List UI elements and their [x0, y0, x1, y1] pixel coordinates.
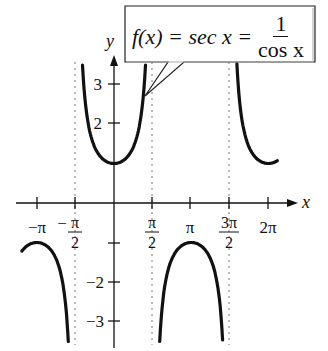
- xtick-label-3pi-over-2-num: 3π: [221, 214, 237, 231]
- x-axis-label: x: [301, 192, 310, 212]
- formula-lhs: f(x) = sec x =: [132, 24, 252, 50]
- axes: [16, 55, 298, 348]
- branch-right-upper: [237, 64, 278, 164]
- xtick-label-neg-pi-over-2-den: 2: [71, 234, 79, 251]
- formula-fraction: 1 cos x: [258, 13, 304, 61]
- formula-numerator: 1: [273, 13, 288, 37]
- xtick-label-neg-sign: −: [57, 214, 67, 233]
- xtick-label-neg-pi-over-2-num: π: [71, 214, 79, 231]
- branch-left-lower: [22, 243, 69, 342]
- ytick-label-neg-2: −2: [86, 273, 104, 292]
- formula-denominator: cos x: [258, 37, 304, 61]
- y-axis-arrow-icon: [110, 55, 118, 66]
- y-axis-label: y: [104, 31, 114, 51]
- xtick-label-pi-over-2-den: 2: [148, 234, 156, 251]
- xtick-label-3pi-over-2-den: 2: [225, 234, 233, 251]
- xtick-label-neg-pi: −π: [28, 218, 47, 237]
- xtick-label-pi-over-2-num: π: [148, 214, 156, 231]
- formula-label: f(x) = sec x = 1 cos x: [132, 12, 314, 62]
- x-axis-arrow-icon: [287, 199, 298, 207]
- xtick-label-2pi: 2π: [259, 218, 277, 237]
- ytick-label-3: 3: [94, 75, 103, 94]
- xtick-label-pi: π: [186, 218, 195, 237]
- branch-middle-lower: [160, 243, 223, 342]
- ytick-label-2: 2: [94, 114, 103, 133]
- ytick-label-neg-3: −3: [86, 312, 104, 331]
